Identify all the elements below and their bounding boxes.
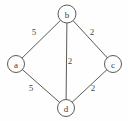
node-label-d: d: [64, 104, 69, 114]
graph-node-d: d: [58, 100, 75, 117]
graph-node-b: b: [58, 5, 76, 23]
edge-weights-layer: 52252: [29, 27, 96, 93]
edge-weight-a-b: 5: [32, 27, 37, 37]
graph-diagram: bacd 52252: [0, 0, 128, 121]
graph-node-a: a: [8, 56, 25, 73]
node-label-a: a: [14, 60, 18, 70]
node-label-b: b: [65, 10, 70, 20]
graph-node-c: c: [105, 56, 122, 73]
edge-weight-b-c: 2: [90, 27, 95, 37]
graph-edge-a-b: [22, 20, 61, 58]
graph-edge-c-d: [72, 70, 107, 102]
node-label-c: c: [111, 60, 115, 70]
nodes-layer: bacd: [8, 5, 122, 117]
graph-canvas: bacd 52252: [0, 0, 128, 121]
edge-weight-b-d: 2: [68, 56, 73, 66]
edge-weight-c-d: 2: [91, 83, 96, 93]
edge-weight-a-d: 5: [29, 83, 34, 93]
